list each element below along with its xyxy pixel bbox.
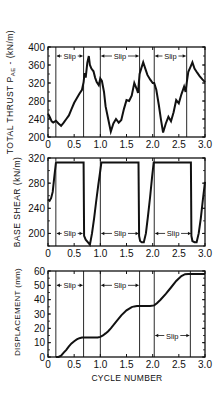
y-tick-label: 30: [34, 309, 46, 320]
slip-label: Slip: [63, 52, 76, 61]
y-tick-label: 50: [34, 280, 46, 291]
panel-displacement: 010203040506000.51.01.52.02.53.0 SlipSli…: [13, 266, 212, 371]
x-tick-label: 2.0: [146, 248, 160, 259]
slip-annotations: SlipSlipSlip: [57, 229, 191, 238]
y-axis-label: TOTAL THRUST PAE - (kN/m): [5, 30, 16, 154]
y-tick-label: 60: [34, 266, 46, 277]
y-tick-label: 280: [28, 96, 45, 107]
total-thrust-line: [48, 56, 205, 133]
y-tick-label: 200: [28, 228, 45, 239]
y-tick-label: 320: [28, 153, 45, 164]
x-tick-label: 2.0: [146, 139, 160, 150]
arrow-left-icon: [57, 232, 60, 236]
y-tick-label: 20: [34, 323, 46, 334]
x-tick-label: 2.5: [172, 139, 186, 150]
arrow-right-icon: [80, 54, 83, 58]
arrow-right-icon: [183, 54, 186, 58]
y-axis-label: BASE SHEAR (kN/m): [12, 157, 22, 248]
x-tick-label: 1.5: [120, 139, 134, 150]
panel-base-shear: 20024028032000.51.01.52.02.53.0 SlipSlip…: [12, 153, 212, 260]
x-tick-label: 0.5: [67, 359, 81, 370]
x-tick-label: 3.0: [198, 359, 212, 370]
x-tick-label: 2.5: [172, 248, 186, 259]
x-tick-label: 2.0: [146, 359, 160, 370]
x-tick-label: 3.0: [198, 139, 212, 150]
x-tick-label: 0.5: [67, 139, 81, 150]
arrow-left-icon: [155, 232, 158, 236]
arrow-right-icon: [80, 284, 83, 288]
x-tick-label: 3.0: [198, 248, 212, 259]
arrow-right-icon: [136, 54, 139, 58]
figure: 20024028032036040000.51.01.52.02.53.0 Sl…: [0, 0, 224, 403]
y-tick-label: 320: [28, 78, 45, 89]
slip-label: Slip: [63, 281, 76, 290]
y-axis-label: DISPLACEMENT (mm): [13, 268, 22, 356]
x-tick-label: 0: [45, 139, 51, 150]
slip-label: Slip: [166, 332, 179, 341]
arrow-left-icon: [101, 54, 104, 58]
x-tick-label: 1.5: [120, 359, 134, 370]
arrow-right-icon: [136, 284, 139, 288]
arrow-left-icon: [57, 54, 60, 58]
y-tick-label: 240: [28, 203, 45, 214]
slip-label: Slip: [63, 229, 76, 238]
arrow-left-icon: [155, 54, 158, 58]
slip-label: Slip: [167, 229, 180, 238]
panel-total-thrust: 20024028032036040000.51.01.52.02.53.0 Sl…: [5, 30, 212, 154]
arrow-right-icon: [80, 232, 83, 236]
arrow-left-icon: [101, 232, 104, 236]
y-tick-label: 360: [28, 60, 45, 71]
y-tick-label: 400: [28, 42, 45, 53]
x-tick-label: 2.5: [172, 359, 186, 370]
slip-annotations: SlipSlipSlip: [57, 52, 186, 61]
y-tick-label: 240: [28, 114, 45, 125]
slip-label: Slip: [114, 281, 127, 290]
x-axis-label: CYCLE NUMBER: [91, 373, 162, 383]
x-tick-label: 1.0: [93, 139, 107, 150]
slip-label: Slip: [114, 229, 127, 238]
x-tick-label: 1.5: [120, 248, 134, 259]
x-tick-label: 0.5: [67, 248, 81, 259]
displacement-line: [56, 274, 205, 357]
arrow-right-icon: [186, 334, 189, 338]
arrow-left-icon: [155, 334, 158, 338]
x-tick-label: 0: [45, 359, 51, 370]
arrow-left-icon: [101, 284, 104, 288]
arrow-left-icon: [57, 284, 60, 288]
x-tick-label: 0: [45, 248, 51, 259]
x-tick-label: 1.0: [93, 248, 107, 259]
y-tick-label: 200: [28, 132, 45, 143]
slip-label: Slip: [114, 52, 127, 61]
y-tick-label: 280: [28, 178, 45, 189]
slip-label: Slip: [164, 52, 177, 61]
y-tick-label: 40: [34, 294, 46, 305]
y-tick-label: 10: [34, 337, 46, 348]
x-tick-label: 1.0: [93, 359, 107, 370]
